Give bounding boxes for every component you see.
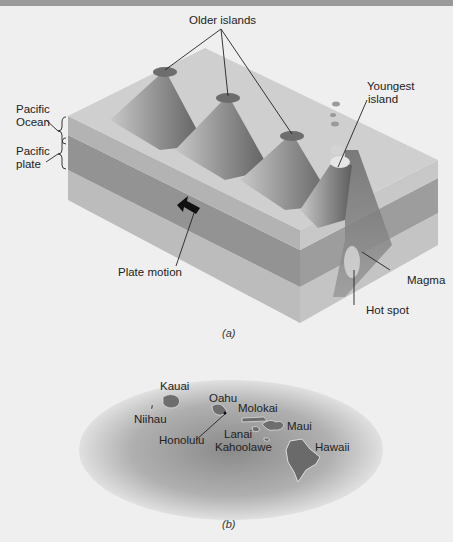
block-diagram <box>46 29 438 323</box>
label-pacific-plate-line2: plate <box>16 158 41 171</box>
label-honolulu: Honolulu <box>159 434 204 447</box>
label-kahoolawe: Kahoolawe <box>215 441 272 454</box>
label-maui: Maui <box>287 420 312 433</box>
label-pacific-ocean-line1: Pacific <box>16 103 50 116</box>
label-youngest-island-line2: island <box>368 93 398 106</box>
label-molokai: Molokai <box>238 402 278 415</box>
label-pacific-plate-line1: Pacific <box>16 145 50 158</box>
molokai-shape <box>242 417 267 422</box>
honolulu-marker-icon <box>224 412 227 415</box>
label-older-islands: Older islands <box>189 14 256 27</box>
label-hot-spot: Hot spot <box>366 304 409 317</box>
caption-part-b: (b) <box>222 518 235 530</box>
label-magma: Magma <box>407 274 445 287</box>
caption-part-a: (a) <box>222 327 235 339</box>
label-hawaii: Hawaii <box>315 441 350 454</box>
label-niihau: Niihau <box>134 413 167 426</box>
kauai-shape <box>163 395 180 409</box>
hot-spot-glow <box>344 246 360 278</box>
label-kauai: Kauai <box>160 380 189 393</box>
label-oahu: Oahu <box>209 392 237 405</box>
label-lanai: Lanai <box>224 428 252 441</box>
label-plate-motion: Plate motion <box>118 266 182 279</box>
label-youngest-island-line1: Youngest <box>367 80 415 93</box>
label-pacific-ocean-line2: Ocean <box>16 116 50 129</box>
